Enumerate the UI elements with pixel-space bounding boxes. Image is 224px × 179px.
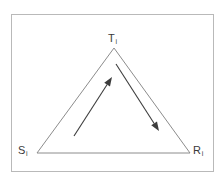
vertex-letter-r: R <box>193 144 201 156</box>
vertex-label-r: Ri <box>193 145 203 156</box>
vertex-subscript-s: i <box>26 150 28 157</box>
diagram-canvas <box>0 0 224 179</box>
vertex-label-s: Si <box>18 145 27 156</box>
vertex-letter-s: S <box>18 144 26 156</box>
vertex-label-t: Ti <box>108 33 117 44</box>
vertex-letter-t: T <box>108 32 115 44</box>
vertex-subscript-t: i <box>115 38 117 45</box>
figure-container: Ti Si Ri <box>0 0 224 179</box>
